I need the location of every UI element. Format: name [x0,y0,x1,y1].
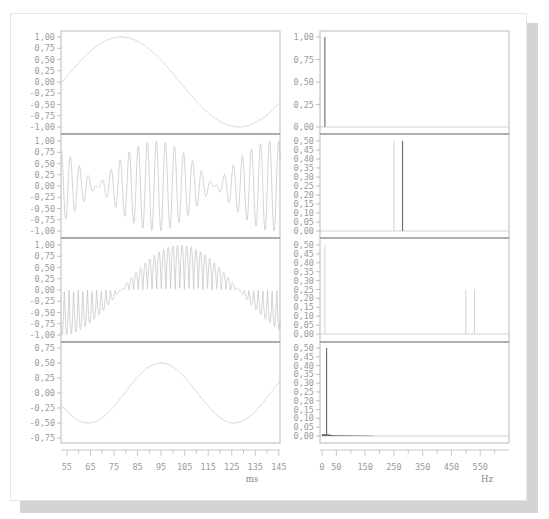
x-tick-label: 145 [271,462,286,472]
x-tick-label: 95 [156,462,166,472]
x-tick-label: 75 [109,462,119,472]
y-tick-label: 1,00 [35,32,55,42]
x-tick-label: 350 [415,462,430,472]
x-tick-label: 105 [177,462,192,472]
y-tick-label: 0,25 [35,373,55,383]
y-tick-label: -1,00 [29,226,55,236]
y-tick-label: -0,75 [29,215,55,225]
spectrum-panel-1: 1,000,750,500,250,00 [294,31,509,134]
x-tick-label: 50 [331,462,341,472]
signal-trace [61,245,280,335]
y-tick-label: 0,00 [35,388,55,398]
spectrum-panel-3: 0,500,450,400,350,300,250,200,150,100,05… [294,238,509,342]
spectrum-panel-4: 0,500,450,400,350,300,250,200,150,100,05… [294,342,509,484]
y-tick-label: -1,00 [29,122,55,132]
y-tick-label: -0,25 [29,403,55,413]
spectrum-panel-2: 0,500,450,400,350,300,250,200,150,100,05… [294,134,509,238]
y-tick-label: 0,00 [35,181,55,191]
signal-figure: 1,000,750,500,250,00-0,25-0,50-0,75-1,00… [0,0,549,519]
y-tick-label: 0,50 [294,77,314,87]
y-tick-label: 0,75 [35,147,55,157]
y-tick-label: 0,00 [35,77,55,87]
y-tick-label: 0,25 [35,170,55,180]
y-tick-label: 0,75 [35,251,55,261]
y-tick-label: 0,50 [35,159,55,169]
signal-trace [61,37,280,127]
x-tick-label: 450 [444,462,459,472]
y-tick-label: -0,25 [29,192,55,202]
x-tick-label: 85 [132,462,142,472]
y-tick-label: -0,50 [29,308,55,318]
y-tick-label: -0,25 [29,296,55,306]
y-tick-label: 0,00 [294,226,314,236]
x-tick-label: 135 [248,462,263,472]
y-tick-label: -0,75 [29,433,55,443]
time-panel-3: 1,000,750,500,250,00-0,25-0,50-0,75-1,00 [29,238,280,342]
x-tick-label: 65 [85,462,95,472]
y-tick-label: 0,50 [35,263,55,273]
signal-trace [61,141,280,231]
y-tick-label: -0,50 [29,204,55,214]
y-tick-label: 0,50 [35,55,55,65]
y-tick-label: 0,75 [294,55,314,65]
x-tick-label: 250 [386,462,401,472]
y-tick-label: -1,00 [29,330,55,340]
y-tick-label: 0,25 [294,100,314,110]
time-panel-4: 0,750,500,250,00-0,25-0,50-0,75556575859… [29,342,286,484]
x-tick-label: 0 [319,462,324,472]
x-tick-label: 150 [357,462,372,472]
y-tick-label: 1,00 [35,240,55,250]
y-tick-label: 0,00 [35,285,55,295]
signal-trace [61,363,280,423]
y-tick-label: 0,75 [35,43,55,53]
y-tick-label: 0,00 [294,431,314,441]
y-tick-label: -0,75 [29,111,55,121]
x-axis-title-hz: Hz [481,474,493,484]
y-tick-label: -0,50 [29,100,55,110]
x-tick-label: 55 [62,462,72,472]
time-panel-1: 1,000,750,500,250,00-0,25-0,50-0,75-1,00 [29,31,280,134]
y-tick-label: -0,50 [29,418,55,428]
y-tick-label: 0,00 [294,122,314,132]
y-tick-label: 0,75 [35,343,55,353]
y-tick-label: -0,25 [29,88,55,98]
y-tick-label: 1,00 [35,136,55,146]
y-tick-label: -0,75 [29,319,55,329]
x-tick-label: 125 [224,462,239,472]
noise-floor [322,434,374,436]
time-panel-2: 1,000,750,500,250,00-0,25-0,50-0,75-1,00 [29,134,280,238]
x-axis-title-ms: ms [246,474,258,484]
y-tick-label: 0,25 [35,66,55,76]
x-tick-label: 550 [473,462,488,472]
x-tick-label: 115 [200,462,215,472]
y-tick-label: 0,25 [35,274,55,284]
y-tick-label: 0,50 [35,358,55,368]
y-tick-label: 0,00 [294,329,314,339]
y-tick-label: 1,00 [294,32,314,42]
